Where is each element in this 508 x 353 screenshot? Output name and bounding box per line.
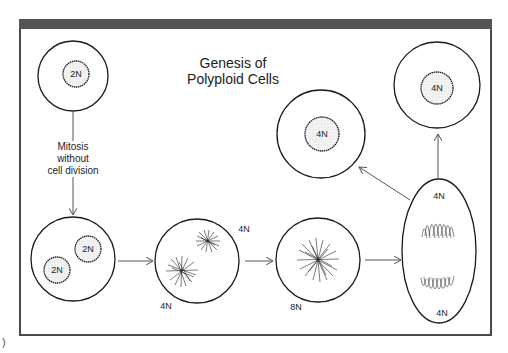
- metaphase-cell: [276, 218, 360, 302]
- nucleus-label: 4N: [316, 129, 328, 139]
- chromosome-cluster-icon: [297, 238, 339, 282]
- chromosome-set-lower-icon: [421, 276, 454, 289]
- header-bar: [19, 19, 492, 29]
- figure-fragment: ): [2, 336, 6, 348]
- ploidy-label: 4N: [238, 224, 250, 234]
- nucleus-label: 2N: [51, 265, 63, 275]
- ploidy-label: 8N: [290, 302, 302, 312]
- mitosis-annotation: Mitosis without cell division: [47, 141, 98, 177]
- nucleus-label: 4N: [431, 83, 443, 93]
- annotation-line-3: cell division: [47, 165, 98, 177]
- title-line-1: Genesis of: [187, 55, 279, 71]
- ploidy-label: 4N: [433, 191, 445, 201]
- annotation-line-1: Mitosis: [47, 141, 98, 153]
- chromosome-cluster-icon: [196, 230, 220, 252]
- nucleus-label: 2N: [70, 69, 82, 79]
- prophase-cell: [155, 219, 239, 303]
- title-line-2: Polyploid Cells: [187, 71, 279, 87]
- ploidy-label: 4N: [160, 301, 172, 311]
- chromosome-cluster-icon: [166, 256, 198, 287]
- binucleate-cell: [31, 217, 115, 301]
- ploidy-label: 4N: [436, 308, 448, 318]
- arrow-4: [359, 167, 410, 200]
- chromosome-set-upper-icon: [422, 224, 454, 238]
- figure-title: Genesis of Polyploid Cells: [187, 55, 279, 87]
- nucleus-label: 2N: [82, 244, 94, 254]
- annotation-line-2: without: [47, 153, 98, 165]
